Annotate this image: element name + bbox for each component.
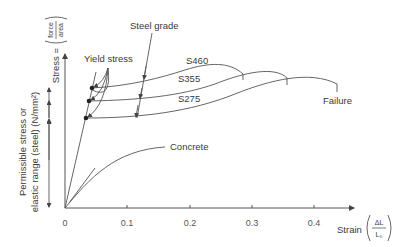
x-tick-label: 0.4 [308,218,321,228]
yield-point [90,86,95,91]
strain-numerator: ΔL [375,219,384,226]
steel-grade-label: Steel grade [130,20,179,31]
yield-stress-annotation: Yield stress [84,53,133,117]
permissible-line-1: Permissible stress or [17,108,28,196]
steel-curve-s275: S275 [84,77,337,120]
strain-denominator: L₀ [376,231,383,238]
failure-label: Failure [323,95,352,106]
concrete-curve: Concrete [65,141,209,208]
x-tick-label: 0.2 [184,218,197,228]
chart-canvas: 0 0.1 0.2 0.3 0.4 Stress = force area Pe… [0,0,402,247]
x-tick-label: 0.1 [121,218,134,228]
strain-word: Strain [337,224,362,235]
x-tick-label: 0.3 [246,218,259,228]
yield-stress-label: Yield stress [84,53,133,64]
steel-grade-annotation: Steel grade [130,20,179,118]
permissible-line-2: elastic range (steel) (N/mm²) [29,92,40,212]
y-axis-label: Stress = force area [45,17,67,83]
stress-denominator: area [57,23,64,37]
stress-numerator: force [47,22,54,38]
yield-point [87,99,92,104]
yield-point [84,116,89,121]
concrete-label: Concrete [170,141,209,152]
s460-label: S460 [186,55,208,66]
s355-label: S355 [178,73,200,84]
s275-label: S275 [178,93,200,104]
x-axis-label: Strain ΔL L₀ [337,215,391,241]
stress-strain-diagram: 0 0.1 0.2 0.3 0.4 Stress = force area Pe… [0,0,402,247]
x-tick-label: 0 [62,218,67,228]
permissible-stress-label: Permissible stress or elastic range (ste… [17,92,40,212]
stress-word: Stress = [50,48,61,84]
